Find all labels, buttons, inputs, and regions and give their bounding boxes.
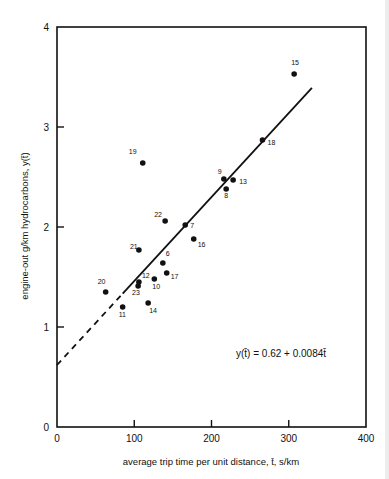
point-marker bbox=[160, 260, 166, 266]
y-tick-label: 3 bbox=[43, 122, 49, 133]
data-point-11: 11 bbox=[119, 304, 126, 318]
point-marker bbox=[145, 300, 151, 306]
point-label: 13 bbox=[239, 178, 247, 185]
y-tick-label: 0 bbox=[43, 422, 49, 433]
point-label: 6 bbox=[166, 250, 170, 257]
regression-line-solid bbox=[123, 88, 312, 294]
data-point-13: 13 bbox=[230, 177, 247, 185]
data-point-18: 18 bbox=[260, 137, 276, 146]
point-marker bbox=[140, 160, 146, 166]
point-label: 8 bbox=[224, 192, 228, 199]
page-edge bbox=[385, 0, 389, 479]
point-label: 7 bbox=[190, 222, 194, 229]
point-label: 23 bbox=[132, 289, 140, 296]
y-axis-label: engine-out g/km hydrocarbons, y(t̄) bbox=[19, 152, 30, 299]
point-label: 22 bbox=[154, 211, 162, 218]
point-marker bbox=[103, 289, 109, 295]
data-point-17: 17 bbox=[164, 270, 179, 280]
point-marker bbox=[135, 283, 141, 289]
data-point-14: 14 bbox=[145, 300, 157, 314]
axes-box bbox=[57, 27, 366, 427]
scatter-chart: 010020030040001234 678910111213141516171… bbox=[0, 0, 389, 479]
point-marker bbox=[223, 186, 229, 192]
x-tick-label: 300 bbox=[280, 433, 297, 444]
data-point-22: 22 bbox=[154, 211, 168, 224]
point-label: 21 bbox=[130, 243, 138, 250]
regression-line-dashed bbox=[57, 294, 123, 365]
point-label: 18 bbox=[267, 139, 275, 146]
x-tick-label: 400 bbox=[358, 433, 375, 444]
plot-frame bbox=[57, 27, 366, 427]
data-point-19: 19 bbox=[129, 148, 146, 166]
point-marker bbox=[152, 276, 158, 282]
x-axis-label: average trip time per unit distance, t̄,… bbox=[123, 456, 299, 467]
point-marker bbox=[260, 137, 266, 143]
y-tick-label: 4 bbox=[43, 22, 49, 33]
axis-ticks: 010020030040001234 bbox=[43, 22, 374, 444]
data-point-12: 12 bbox=[136, 272, 150, 285]
point-label: 20 bbox=[98, 278, 106, 285]
regression-equation: y(t̄) = 0.62 + 0.0084t̄ bbox=[236, 348, 327, 359]
data-point-20: 20 bbox=[98, 278, 109, 295]
point-label: 11 bbox=[119, 311, 126, 318]
point-marker bbox=[182, 222, 188, 228]
data-point-16: 16 bbox=[191, 236, 206, 248]
point-marker bbox=[120, 304, 126, 310]
point-marker bbox=[230, 177, 236, 183]
point-label: 19 bbox=[129, 148, 137, 155]
data-point-9: 9 bbox=[218, 168, 227, 182]
data-point-21: 21 bbox=[130, 243, 142, 253]
point-label: 16 bbox=[198, 241, 206, 248]
y-tick-label: 2 bbox=[43, 222, 49, 233]
data-point-8: 8 bbox=[223, 186, 229, 199]
point-label: 9 bbox=[218, 168, 222, 175]
point-label: 17 bbox=[171, 273, 179, 280]
point-marker bbox=[291, 71, 297, 77]
x-tick-label: 0 bbox=[54, 433, 60, 444]
point-marker bbox=[162, 218, 168, 224]
point-marker bbox=[221, 176, 227, 182]
data-point-23: 23 bbox=[132, 283, 141, 296]
point-label: 12 bbox=[142, 272, 150, 279]
point-label: 15 bbox=[291, 59, 299, 66]
point-label: 14 bbox=[149, 307, 157, 314]
point-marker bbox=[191, 236, 197, 242]
x-tick-label: 200 bbox=[203, 433, 220, 444]
data-point-10: 10 bbox=[152, 276, 161, 290]
x-tick-label: 100 bbox=[126, 433, 143, 444]
data-point-15: 15 bbox=[291, 59, 299, 77]
data-points: 67891011121314151617181920212223 bbox=[98, 59, 299, 318]
point-label: 10 bbox=[152, 283, 160, 290]
point-marker bbox=[164, 270, 170, 276]
y-tick-label: 1 bbox=[43, 322, 49, 333]
